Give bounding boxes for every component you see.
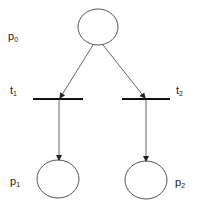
place-p1 bbox=[37, 160, 79, 198]
petri-net-diagram: p0 t1 t2 p1 p2 bbox=[0, 0, 198, 204]
label-p1: p1 bbox=[10, 175, 20, 188]
label-p2: p2 bbox=[175, 176, 185, 189]
label-t2: t2 bbox=[176, 84, 183, 97]
place-p2 bbox=[125, 161, 167, 199]
place-p0 bbox=[78, 9, 118, 45]
label-t1: t1 bbox=[10, 84, 17, 97]
label-p0: p0 bbox=[8, 30, 18, 43]
arc-p0-t2 bbox=[103, 45, 145, 98]
arc-p0-t1 bbox=[60, 45, 93, 98]
